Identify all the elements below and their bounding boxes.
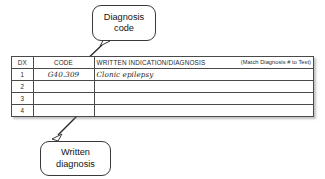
callout-tail-written-diagnosis (52, 134, 62, 141)
written-diagnosis-field-1[interactable]: Clonic epilepsy (94, 69, 313, 81)
column-header-written-indication-label: WRITTEN INDICATION/DIAGNOSIS (97, 59, 206, 66)
written-diagnosis-field-2[interactable] (94, 81, 313, 93)
row-number-1: 1 (12, 69, 33, 81)
table-header-row: DX CODE WRITTEN INDICATION/DIAGNOSIS (Ma… (12, 57, 313, 69)
written-diagnosis-field-4[interactable] (94, 105, 313, 117)
table-row: 2 (12, 81, 313, 93)
diagnosis-table: DX CODE WRITTEN INDICATION/DIAGNOSIS (Ma… (11, 56, 314, 117)
column-header-code: CODE (33, 57, 94, 69)
row-number-4: 4 (12, 105, 33, 117)
row-number-2: 2 (12, 81, 33, 93)
screenshot-canvas: DX CODE WRITTEN INDICATION/DIAGNOSIS (Ma… (0, 0, 325, 179)
code-field-4[interactable] (33, 105, 94, 117)
table-row: 4 (12, 105, 313, 117)
table-row: 1 G40.309 Clonic epilepsy (12, 69, 313, 81)
callout-written-diagnosis-line2: diagnosis (56, 159, 95, 171)
callout-diagnosis-code-line2: code (114, 23, 134, 35)
column-header-dx: DX (12, 57, 33, 69)
callout-written-diagnosis: Written diagnosis (40, 141, 111, 176)
column-header-match-note: (Match Diagnosis # to Test) (241, 57, 311, 67)
row-number-3: 3 (12, 93, 33, 105)
callout-diagnosis-code: Diagnosis code (92, 5, 156, 41)
code-field-2[interactable] (33, 81, 94, 93)
code-field-3[interactable] (33, 93, 94, 105)
written-diagnosis-field-3[interactable] (94, 93, 313, 105)
column-header-written-indication: WRITTEN INDICATION/DIAGNOSIS (Match Diag… (94, 57, 313, 69)
table-row: 3 (12, 93, 313, 105)
callout-diagnosis-code-line1: Diagnosis (104, 12, 144, 24)
code-field-1[interactable]: G40.309 (33, 69, 94, 81)
callout-written-diagnosis-line1: Written (61, 147, 90, 159)
